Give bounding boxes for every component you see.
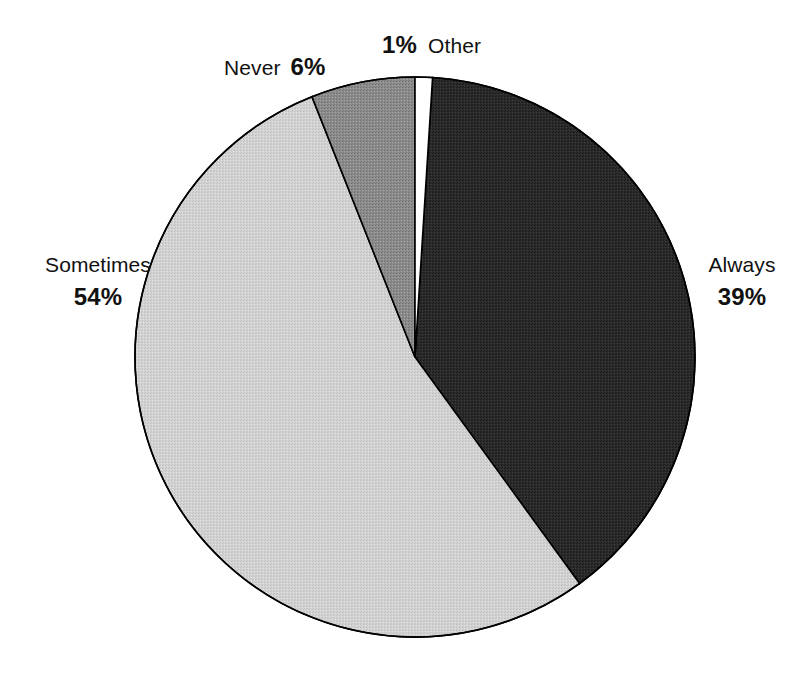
- slice-name-always: Always: [708, 253, 775, 276]
- slice-name-never: Never: [224, 55, 281, 81]
- slice-pct-always: 39%: [694, 282, 790, 311]
- slice-pct-sometimes: 54%: [28, 282, 168, 311]
- pie-chart: 1% Other Never 6% Sometimes 54% Always 3…: [0, 0, 803, 676]
- slice-pct-never: 6%: [291, 52, 326, 81]
- slice-label-other: 1% Other: [382, 30, 481, 59]
- pie-chart-canvas: [0, 0, 803, 676]
- slice-name-other: Other: [428, 33, 481, 59]
- slice-label-never: Never 6%: [224, 52, 326, 81]
- slice-label-always: Always 39%: [694, 252, 790, 311]
- slice-name-sometimes: Sometimes: [45, 253, 151, 276]
- slice-pct-other: 1%: [382, 30, 417, 59]
- slice-label-sometimes: Sometimes 54%: [28, 252, 168, 311]
